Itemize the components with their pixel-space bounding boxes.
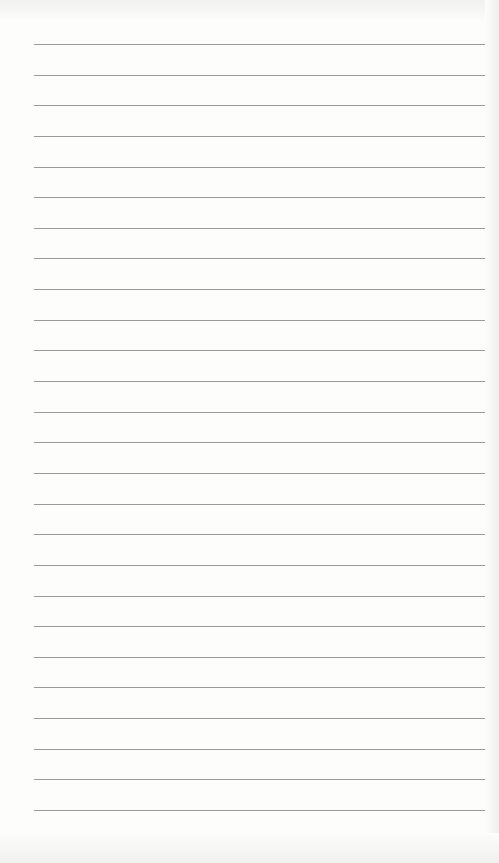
ruled-line [34,289,488,290]
ruled-line [34,350,488,351]
ruled-line [34,596,488,597]
ruled-line [34,687,488,688]
ruled-line [34,320,488,321]
ruled-line [34,44,488,45]
ruled-line [34,258,488,259]
ruled-line [34,534,488,535]
ruled-line [34,504,488,505]
ruled-lines [0,0,499,863]
ruled-line [34,810,488,811]
ruled-line [34,197,488,198]
ruled-line [34,228,488,229]
ruled-line [34,749,488,750]
ruled-line [34,381,488,382]
ruled-line [34,136,488,137]
ruled-line [34,473,488,474]
ruled-line [34,718,488,719]
ruled-line [34,626,488,627]
page-edge-shadow [485,0,499,863]
page-bottom-shadow [0,833,499,863]
ruled-line [34,412,488,413]
ruled-line [34,75,488,76]
ruled-line [34,167,488,168]
ruled-line [34,442,488,443]
ruled-line [34,657,488,658]
ruled-line [34,565,488,566]
ruled-line [34,779,488,780]
ruled-line [34,105,488,106]
